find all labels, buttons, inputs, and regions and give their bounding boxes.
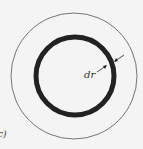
outer-circle [11, 13, 137, 139]
diagram: dr c) [0, 0, 143, 149]
panel-label: c) [0, 129, 7, 139]
dr-label: dr [84, 69, 96, 80]
thin-shell-ring [36, 37, 114, 115]
arrow-outer-head [114, 58, 118, 62]
arrow-inner-head [103, 65, 107, 69]
